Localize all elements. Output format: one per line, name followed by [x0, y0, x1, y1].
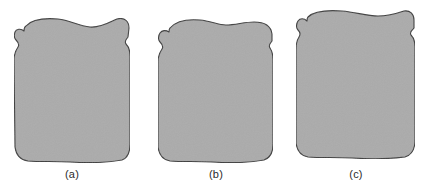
figure-container: (a) (b) (c) — [0, 0, 427, 190]
figure-canvas — [0, 0, 427, 190]
shape-panel-b — [158, 20, 273, 163]
panel-caption-a: (a) — [42, 168, 102, 180]
panel-caption-b: (b) — [186, 168, 246, 180]
blob-outline-b — [158, 20, 273, 163]
panel-caption-c: (c) — [326, 168, 386, 180]
shape-panel-c — [296, 11, 415, 159]
shape-panel-a — [14, 18, 130, 162]
blob-outline-c — [296, 11, 415, 159]
blob-outline-a — [14, 18, 130, 162]
